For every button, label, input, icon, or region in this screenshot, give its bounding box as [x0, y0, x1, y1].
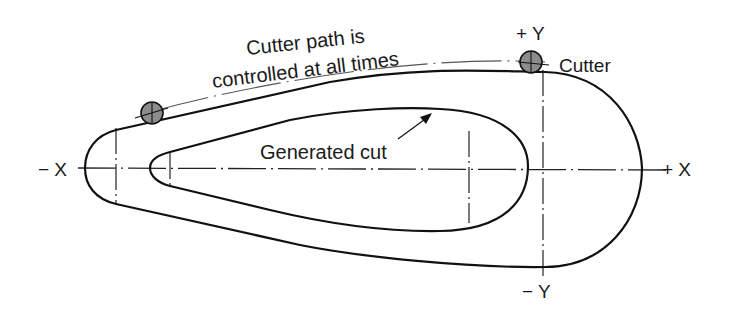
label-generated-cut: Generated cut — [260, 141, 387, 163]
label-plus-y: + Y — [516, 23, 545, 44]
label-minus-x: − X — [38, 159, 67, 180]
label-minus-y: − Y — [522, 281, 551, 302]
cutter-left — [135, 102, 168, 124]
label-cutter-path-line2: controlled at all times — [211, 47, 400, 92]
label-cutter: Cutter — [559, 55, 611, 76]
label-plus-x: + X — [662, 159, 691, 180]
generated-cut-arrow — [398, 113, 432, 139]
cnc-cutter-path-diagram: Cutter path is controlled at all times C… — [0, 0, 729, 328]
x-axis-centerline — [78, 168, 668, 170]
